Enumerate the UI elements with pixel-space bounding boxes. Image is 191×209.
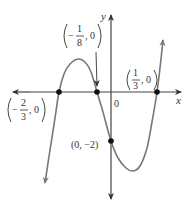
label-y-intercept: (0, −2) — [71, 139, 98, 151]
point-root-neg-one-eighth — [94, 89, 100, 95]
point-root-one-third — [154, 89, 160, 95]
origin-label: 0 — [114, 98, 119, 109]
annotation-arrow — [96, 52, 97, 86]
svg-text:, 0: , 0 — [141, 74, 151, 85]
svg-text:3: 3 — [21, 111, 26, 122]
cubic-graph: x y 0 − 2 3 , 0 − 1 8 , 0 1 3 , 0 (0, −2… — [0, 0, 191, 209]
svg-text:1: 1 — [77, 23, 82, 34]
label-root-neg-one-eighth: − 1 8 , 0 — [64, 23, 101, 48]
svg-text:−: − — [68, 30, 74, 41]
cubic-curve — [45, 40, 163, 183]
y-axis-label: y — [100, 10, 106, 22]
label-root-one-third: 1 3 , 0 — [127, 67, 157, 91]
svg-text:−: − — [12, 104, 18, 115]
svg-text:8: 8 — [77, 37, 82, 48]
svg-text:2: 2 — [21, 97, 26, 108]
point-y-intercept — [108, 138, 114, 144]
point-root-neg-two-thirds — [56, 89, 62, 95]
x-axis-label: x — [175, 94, 181, 106]
svg-text:3: 3 — [133, 80, 138, 91]
label-root-neg-two-thirds: − 2 3 , 0 — [8, 97, 45, 122]
svg-text:, 0: , 0 — [85, 30, 95, 41]
svg-text:1: 1 — [133, 67, 138, 78]
svg-text:, 0: , 0 — [29, 104, 39, 115]
